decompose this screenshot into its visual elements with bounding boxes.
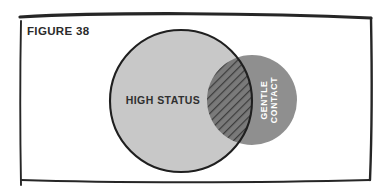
venn-label-gentle-contact-line2: CONTACT — [269, 77, 279, 123]
figure-panel: FIGURE 38 HIGH STATUS — [0, 0, 392, 196]
venn-label-gentle-contact-line1: GENTLE — [259, 80, 269, 119]
venn-label-high-status: HIGH STATUS — [126, 94, 201, 106]
venn-diagram: HIGH STATUS GENTLE CONTACT — [0, 0, 392, 196]
venn-label-gentle-contact: GENTLE CONTACT — [259, 77, 279, 123]
